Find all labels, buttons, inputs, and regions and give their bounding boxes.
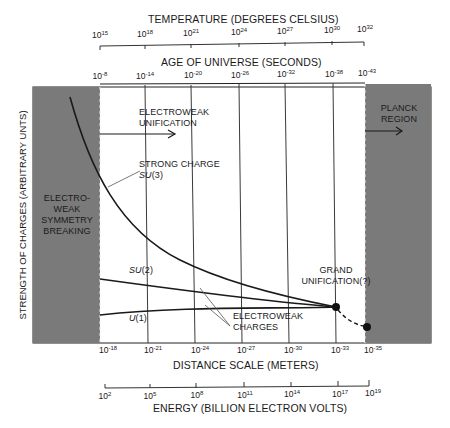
temp-tick: 1024 [231,27,247,37]
electroweak-unification-label: ELECTROWEAK UNIFICATION [139,107,209,129]
temp-tick: 1021 [183,28,199,38]
energy-tick: 105 [144,391,157,401]
distance-tick: 10-33 [331,345,349,355]
temperature-axis-line [100,41,364,50]
age-tick: 10-38 [325,69,343,79]
planck-region-label: PLANCK REGION [374,103,424,125]
planck-point [363,323,371,331]
electroweak-breaking-label: ELECTRO- WEAK SYMMETRY BREAKING [40,193,94,237]
temp-tick: 1018 [137,29,153,39]
age-tick: 10-8 [93,71,108,81]
distance-tick: 10-27 [237,345,255,355]
grand-unification-point [332,303,340,311]
strong-charge-label: STRONG CHARGE SU(3) [139,159,220,181]
energy-tick: 1014 [284,389,300,399]
age-tick: 10-20 [184,70,202,80]
age-tick: 10-26 [231,70,249,80]
energy-tick: 1011 [237,390,253,400]
energy-tick: 1019 [365,388,381,398]
age-tick: 10-43 [358,68,376,78]
energy-axis-line [105,380,369,388]
distance-tick: 10-18 [99,345,117,355]
distance-tick: 10-21 [144,345,162,355]
age-tick: 10-32 [277,69,295,79]
temp-tick: 1032 [357,24,373,34]
temp-tick: 1015 [92,30,108,40]
temp-tick: 1027 [277,26,293,36]
energy-tick: 1017 [332,389,348,399]
grand-unification-label: GRAND UNIFICATION(?) [296,265,376,287]
age-tick: 10-14 [136,71,154,81]
energy-tick: 102 [99,391,112,401]
distance-tick: 10-24 [191,345,209,355]
electroweak-charges-label: ELECTROWEAK CHARGES [233,311,303,333]
u1-label: U(1) [129,313,147,323]
energy-tick: 108 [191,390,204,400]
distance-tick: 10-35 [364,345,382,355]
su2-label: SU(2) [129,265,153,275]
distance-tick: 10-30 [284,345,302,355]
temp-tick: 1030 [324,25,340,35]
